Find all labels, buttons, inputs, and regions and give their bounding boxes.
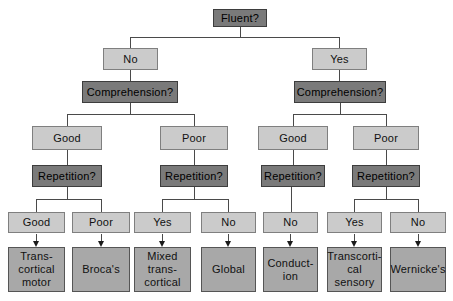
node-comprehension-left: Comprehension? bbox=[82, 81, 178, 103]
connector-line bbox=[194, 187, 195, 199]
connector-line bbox=[386, 114, 387, 126]
down-arrow-icon bbox=[290, 234, 291, 241]
connector-line bbox=[130, 70, 131, 81]
connector-line bbox=[386, 187, 387, 199]
connector-line bbox=[36, 199, 101, 200]
down-arrow-icon bbox=[228, 234, 229, 241]
connector-line bbox=[386, 150, 387, 165]
connector-line bbox=[162, 199, 163, 212]
connector-line bbox=[194, 114, 195, 126]
node-comprehension-right: Comprehension? bbox=[294, 81, 386, 103]
down-arrow-icon bbox=[162, 234, 163, 241]
connector-line bbox=[162, 199, 229, 200]
connector-line bbox=[67, 150, 68, 165]
node-rep1-poor: Poor bbox=[72, 212, 130, 233]
connector-line bbox=[101, 199, 102, 212]
connector-line bbox=[293, 150, 294, 165]
node-global: Global bbox=[201, 247, 256, 292]
node-fluent-question: Fluent? bbox=[213, 9, 267, 27]
connector-line bbox=[240, 27, 241, 37]
node-mixed-transcortical: Mixed trans- cortical bbox=[134, 247, 191, 292]
connector-line bbox=[340, 103, 341, 114]
node-rep1-good: Good bbox=[8, 212, 65, 233]
connector-line bbox=[293, 114, 387, 115]
node-comp-left-good: Good bbox=[32, 126, 102, 150]
node-repetition-3: Repetition? bbox=[261, 165, 325, 187]
connector-line bbox=[130, 103, 131, 114]
node-rep3-no: No bbox=[263, 212, 318, 233]
connector-line bbox=[67, 114, 195, 115]
connector-line bbox=[418, 199, 419, 212]
connector-line bbox=[291, 187, 292, 212]
node-rep2-yes: Yes bbox=[134, 212, 191, 233]
connector-line bbox=[194, 150, 195, 165]
connector-line bbox=[67, 114, 68, 126]
down-arrow-icon bbox=[101, 234, 102, 241]
connector-line bbox=[130, 37, 131, 48]
down-arrow-icon bbox=[418, 234, 419, 241]
node-repetition-2: Repetition? bbox=[160, 165, 228, 187]
down-arrow-icon bbox=[36, 234, 37, 241]
connector-line bbox=[339, 70, 340, 81]
connector-line bbox=[67, 187, 68, 199]
node-rep4-yes: Yes bbox=[327, 212, 382, 233]
node-rep2-no: No bbox=[201, 212, 256, 233]
connector-line bbox=[130, 37, 340, 38]
node-comp-right-poor: Poor bbox=[353, 126, 419, 150]
node-comp-left-poor: Poor bbox=[160, 126, 228, 150]
node-brocas: Broca's bbox=[72, 247, 130, 292]
node-wernickes: Wernicke's bbox=[390, 247, 446, 292]
connector-line bbox=[354, 199, 355, 212]
node-fluent-yes: Yes bbox=[312, 48, 367, 70]
connector-line bbox=[228, 199, 229, 212]
connector-line bbox=[354, 199, 418, 200]
node-transcortical-motor: Trans- cortical motor bbox=[8, 247, 65, 292]
node-repetition-4: Repetition? bbox=[352, 165, 420, 187]
down-arrow-icon bbox=[354, 234, 355, 241]
connector-line bbox=[339, 37, 340, 48]
node-repetition-1: Repetition? bbox=[32, 165, 102, 187]
connector-line bbox=[36, 199, 37, 212]
node-conduction: Conduct- ion bbox=[263, 247, 318, 292]
node-transcortical-sensory: Transcorti- cal sensory bbox=[327, 247, 382, 292]
node-rep4-no: No bbox=[390, 212, 446, 233]
node-comp-right-good: Good bbox=[258, 126, 328, 150]
node-fluent-no: No bbox=[103, 48, 158, 70]
aphasia-decision-tree: Fluent? No Yes Comprehension? Comprehens… bbox=[0, 0, 453, 301]
connector-line bbox=[293, 114, 294, 126]
